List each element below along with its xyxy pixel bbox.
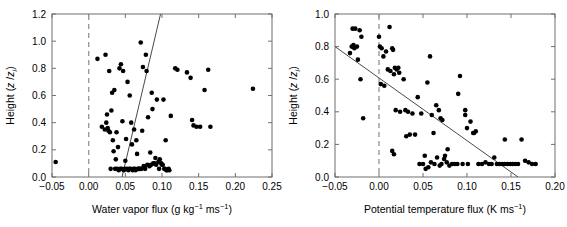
data-point <box>431 131 436 136</box>
y-tick-label-0: 0.0 <box>315 172 329 183</box>
data-point <box>440 118 445 123</box>
x-tick-label-5: 0.20 <box>226 181 246 192</box>
data-point <box>103 52 108 57</box>
x-tick-label-6: 0.25 <box>262 181 282 192</box>
data-point <box>392 72 397 77</box>
regression-fit-line <box>335 47 518 177</box>
data-point <box>401 77 406 82</box>
data-point <box>489 162 494 167</box>
data-point <box>105 112 110 117</box>
data-point <box>104 120 109 125</box>
data-point <box>434 103 439 108</box>
data-point <box>144 69 149 74</box>
data-point <box>148 150 153 155</box>
x-tick-label-5: 0.20 <box>545 181 565 192</box>
x-axis-title: Potential temperature flux (K ms−1) <box>364 202 526 215</box>
data-point <box>435 155 440 160</box>
data-point <box>117 66 122 71</box>
figure-container: −0.050.000.050.100.150.200.250.00.20.40.… <box>0 0 567 227</box>
data-point <box>132 127 137 132</box>
data-point <box>472 131 477 136</box>
y-tick-label-4: 0.8 <box>32 63 46 74</box>
y-tick-label-5: 1.0 <box>315 9 329 20</box>
data-point <box>392 152 397 157</box>
data-point <box>138 40 143 45</box>
data-point <box>426 165 431 170</box>
x-tick-label-2: 0.05 <box>116 181 136 192</box>
data-point <box>391 48 396 53</box>
data-point <box>149 90 154 95</box>
data-point <box>208 124 213 129</box>
data-point <box>353 26 358 31</box>
data-point <box>185 70 190 75</box>
data-point <box>129 120 134 125</box>
data-point <box>393 108 398 113</box>
data-points-group <box>348 25 538 171</box>
plot-svg-right: −0.050.000.050.100.150.200.00.20.40.60.8… <box>283 0 567 227</box>
data-points-group <box>53 40 255 172</box>
data-point <box>398 110 403 115</box>
y-axis-title: Height (z /zi) <box>4 66 19 124</box>
data-point <box>206 67 211 72</box>
x-tick-label-4: 0.15 <box>501 181 521 192</box>
scatter-panel-potential-temperature-flux: −0.050.000.050.100.150.200.00.20.40.60.8… <box>283 0 567 227</box>
data-point <box>406 110 411 115</box>
data-point <box>437 108 442 113</box>
data-point <box>188 76 193 81</box>
data-point <box>413 132 418 137</box>
data-point <box>163 138 168 143</box>
data-point <box>95 57 100 62</box>
y-tick-label-6: 1.2 <box>32 9 46 20</box>
data-point <box>430 113 435 118</box>
data-point <box>396 65 401 70</box>
data-point <box>397 70 402 75</box>
plot-frame <box>335 14 555 177</box>
data-point <box>492 155 497 160</box>
data-point <box>432 162 437 167</box>
data-point <box>123 158 128 163</box>
data-point <box>134 138 139 143</box>
x-tick-label-4: 0.15 <box>189 181 209 192</box>
data-point <box>455 162 460 167</box>
x-tick-label-3: 0.10 <box>457 181 477 192</box>
y-tick-label-4: 0.8 <box>315 41 329 52</box>
data-point <box>357 28 362 33</box>
data-point <box>161 97 166 102</box>
data-point <box>428 54 433 59</box>
data-point <box>410 111 415 116</box>
data-point <box>533 162 538 167</box>
data-point <box>160 162 165 167</box>
data-point <box>158 157 163 162</box>
data-point <box>466 162 471 167</box>
x-axis-title: Water vapor flux (g kg−1 ms−1) <box>92 202 232 215</box>
data-point <box>382 83 387 88</box>
data-point <box>439 162 444 167</box>
data-point <box>356 57 361 62</box>
data-point <box>120 119 125 124</box>
data-point <box>419 111 424 116</box>
plot-svg-left: −0.050.000.050.100.150.200.250.00.20.40.… <box>0 0 284 227</box>
x-tick-label-1: 0.00 <box>369 181 389 192</box>
data-point <box>465 126 470 131</box>
data-point <box>153 156 158 161</box>
data-point <box>155 97 160 102</box>
data-point <box>125 80 130 85</box>
plot-frame <box>52 14 272 177</box>
data-point <box>114 130 119 135</box>
data-point <box>127 93 132 98</box>
data-point <box>388 69 393 74</box>
data-point <box>384 49 389 54</box>
data-point <box>150 107 155 112</box>
data-point <box>425 80 430 85</box>
data-point <box>358 77 363 82</box>
data-point <box>119 62 124 67</box>
data-point <box>114 157 119 162</box>
data-point <box>124 137 129 142</box>
x-tick-label-2: 0.05 <box>413 181 433 192</box>
data-point <box>359 35 364 40</box>
data-point <box>417 162 422 167</box>
data-point <box>141 65 146 70</box>
data-point <box>202 88 207 93</box>
data-point <box>460 162 465 167</box>
x-tick-label-1: 0.00 <box>79 181 99 192</box>
